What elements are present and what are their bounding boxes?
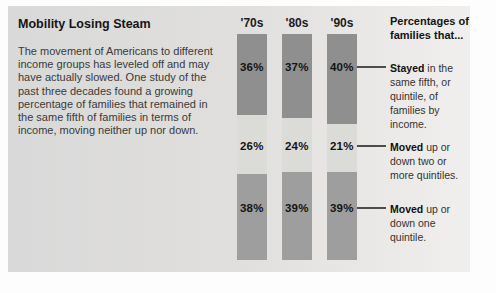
connector-line-stayed	[357, 66, 386, 68]
legend-header: Percentages of families that...	[390, 14, 482, 42]
value-label-moved-two-or-more-quintiles: 24%	[285, 140, 309, 152]
bar-segment-stayed	[327, 34, 357, 124]
legend-entry-moved-two-lead: Moved	[390, 141, 423, 153]
bar-segment-moved-one-quintile	[327, 172, 357, 260]
value-label-moved-one-quintile: 38%	[240, 202, 264, 214]
bar-segment-stayed	[237, 34, 267, 115]
legend-entry-stayed: Stayed in the same fifth, or quintile, o…	[390, 61, 472, 131]
connector-line-moved-two-or-more-quintiles	[357, 145, 386, 147]
value-label-stayed: 36%	[240, 61, 264, 73]
category-label: '70s	[237, 16, 267, 30]
value-label-stayed: 40%	[330, 61, 354, 73]
legend-entry-moved-two: Moved up or down two or more quintiles.	[390, 140, 472, 182]
legend-entry-moved-one: Moved up or down one quintile.	[390, 202, 472, 244]
value-label-moved-two-or-more-quintiles: 21%	[330, 140, 354, 152]
connector-line-moved-one-quintile	[357, 207, 386, 209]
value-label-moved-one-quintile: 39%	[285, 202, 309, 214]
value-label-stayed: 37%	[285, 61, 309, 73]
category-label: '80s	[282, 16, 312, 30]
value-label-moved-one-quintile: 39%	[330, 202, 354, 214]
bar-segment-moved-one-quintile	[237, 174, 267, 260]
mobility-infographic-panel: Mobility Losing Steam The movement of Am…	[8, 6, 470, 272]
category-label: '90s	[327, 16, 357, 30]
bar-segment-moved-one-quintile	[282, 172, 312, 260]
value-label-moved-two-or-more-quintiles: 26%	[240, 140, 264, 152]
legend-entry-stayed-lead: Stayed	[390, 62, 424, 74]
bar-segment-stayed	[282, 34, 312, 118]
legend-entry-moved-one-lead: Moved	[390, 203, 423, 215]
